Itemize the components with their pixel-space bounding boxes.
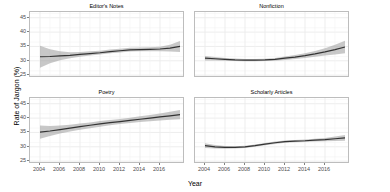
panel-plot-area <box>195 98 349 163</box>
y-tick-label: 35 <box>12 128 26 134</box>
y-tick-mark <box>27 103 29 104</box>
y-tick-label: 45 <box>12 100 26 106</box>
gridlines <box>195 98 349 163</box>
y-tick-mark <box>27 74 29 75</box>
x-tick-mark <box>324 163 325 165</box>
x-tick-mark <box>99 163 100 165</box>
y-tick-mark <box>27 117 29 118</box>
x-tick-mark <box>139 163 140 165</box>
x-tick-mark <box>304 163 305 165</box>
x-tick-label: 2014 <box>298 166 310 173</box>
y-tick-label-wrap: 30 <box>12 146 26 152</box>
y-tick-label-wrap: 30 <box>12 60 26 66</box>
x-tick-label: 2010 <box>93 166 105 173</box>
x-tick-mark <box>224 163 225 165</box>
x-tick-label: 2008 <box>238 166 250 173</box>
panel-title-poetry: Poetry <box>29 88 184 96</box>
y-tick-label: 30 <box>12 57 26 63</box>
y-tick-label: 45 <box>12 14 26 20</box>
panel-plot-area <box>30 12 184 77</box>
y-tick-label: 40 <box>12 28 26 34</box>
y-tick-mark <box>27 146 29 147</box>
x-tick-mark <box>264 163 265 165</box>
y-tick-mark <box>27 17 29 18</box>
x-tick-label: 2004 <box>198 166 210 173</box>
x-tick-label: 2006 <box>218 166 230 173</box>
x-tick-label: 2008 <box>73 166 85 173</box>
y-tick-label-wrap: 40 <box>12 31 26 37</box>
y-tick-mark <box>27 160 29 161</box>
x-tick-mark <box>79 163 80 165</box>
y-tick-label-wrap: 35 <box>12 131 26 137</box>
x-tick-label: 2016 <box>318 166 330 173</box>
y-tick-label-wrap: 35 <box>12 45 26 51</box>
y-tick-label-wrap: 25 <box>12 160 26 166</box>
y-tick-label: 40 <box>12 114 26 120</box>
panel-editor-s-notes <box>29 11 184 77</box>
x-tick-mark <box>204 163 205 165</box>
x-tick-label: 2012 <box>278 166 290 173</box>
x-axis-title: Year <box>0 180 390 187</box>
y-tick-label: 25 <box>12 157 26 163</box>
panel-title-editor-s-notes: Editor's Notes <box>29 2 184 10</box>
x-tick-label: 2016 <box>153 166 165 173</box>
y-tick-label-wrap: 45 <box>12 103 26 109</box>
y-tick-label: 30 <box>12 143 26 149</box>
y-tick-mark <box>27 45 29 46</box>
x-tick-mark <box>39 163 40 165</box>
x-tick-label: 2014 <box>133 166 145 173</box>
x-tick-mark <box>159 163 160 165</box>
panel-plot-area <box>195 12 349 77</box>
panel-nonfiction <box>194 11 349 77</box>
x-tick-mark <box>244 163 245 165</box>
panel-title-scholarly-articles: Scholarly Articles <box>194 88 349 96</box>
y-tick-mark <box>27 131 29 132</box>
panel-scholarly-articles <box>194 97 349 163</box>
y-tick-label: 25 <box>12 71 26 77</box>
panel-title-nonfiction: Nonfiction <box>194 2 349 10</box>
y-tick-mark <box>27 31 29 32</box>
x-tick-mark <box>119 163 120 165</box>
x-tick-label: 2012 <box>113 166 125 173</box>
y-tick-label: 35 <box>12 42 26 48</box>
y-tick-mark <box>27 60 29 61</box>
x-tick-label: 2010 <box>258 166 270 173</box>
x-tick-mark <box>59 163 60 165</box>
faceted-line-chart: Rate of Jargon (%) Year Editor's Notes25… <box>0 0 390 192</box>
y-tick-label-wrap: 45 <box>12 17 26 23</box>
panel-plot-area <box>30 98 184 163</box>
panel-poetry <box>29 97 184 163</box>
x-tick-label: 2004 <box>33 166 45 173</box>
y-tick-label-wrap: 40 <box>12 117 26 123</box>
x-tick-label: 2006 <box>53 166 65 173</box>
gridlines <box>30 12 184 77</box>
gridlines <box>195 12 349 77</box>
y-tick-label-wrap: 25 <box>12 74 26 80</box>
x-tick-mark <box>284 163 285 165</box>
